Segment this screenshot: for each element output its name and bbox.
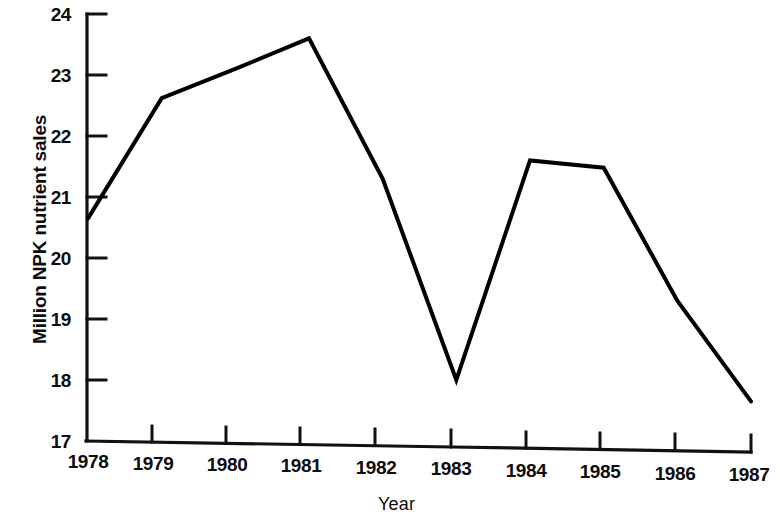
x-tick-label-1986: 1986 (638, 464, 712, 483)
x-tick-label-1979: 1979 (116, 454, 190, 473)
x-tick-label-1980: 1980 (190, 455, 264, 474)
chart-figure: 24 23 22 21 20 19 18 17 1978 1979 1980 1… (0, 0, 780, 525)
x-tick-label-1978: 1978 (51, 452, 125, 471)
x-tick-label-1983: 1983 (414, 459, 488, 478)
y-tick-label-23: 23 (31, 66, 71, 85)
x-tick-label-1987: 1987 (712, 465, 780, 484)
x-tick-label-1982: 1982 (339, 458, 413, 477)
y-axis-title: Million NPK nutrient sales (30, 115, 49, 344)
axis-lines (86, 14, 751, 452)
x-tick-label-1984: 1984 (489, 461, 563, 480)
x-axis-title: Year (378, 495, 415, 513)
y-tick-label-24: 24 (31, 5, 71, 24)
y-tick-label-17: 17 (31, 432, 71, 451)
y-tick-label-18: 18 (31, 371, 71, 390)
line-chart-canvas (0, 0, 780, 525)
x-tick-label-1981: 1981 (264, 456, 338, 475)
x-tick-label-1985: 1985 (563, 462, 637, 481)
x-axis-ticks (152, 426, 751, 452)
data-series-npk-sales (88, 38, 751, 401)
